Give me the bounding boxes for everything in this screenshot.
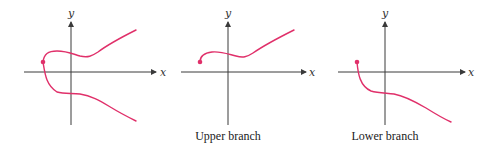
lower-branch-curve [357, 62, 451, 122]
endpoint-dot [355, 60, 360, 65]
endpoint-dot [41, 60, 46, 65]
panel-full-curve: x y [24, 7, 167, 125]
panel-lower-branch: x y Lower branch [338, 7, 475, 143]
upper-branch-curve [43, 30, 136, 62]
caption-upper-branch: Upper branch [195, 129, 261, 143]
y-axis-label: y [67, 7, 75, 20]
y-axis-label: y [381, 7, 389, 20]
diagram-canvas: x y x y Upper branch x y Lower branch [0, 0, 504, 144]
upper-branch-curve [200, 30, 294, 62]
panel-upper-branch: x y Upper branch [181, 7, 316, 143]
x-axis-label: x [160, 66, 167, 79]
x-axis-label: x [468, 66, 475, 79]
y-axis-label: y [224, 7, 232, 20]
caption-lower-branch: Lower branch [352, 129, 419, 143]
lower-branch-curve [43, 62, 136, 121]
endpoint-dot [198, 60, 203, 65]
x-axis-label: x [309, 66, 316, 79]
